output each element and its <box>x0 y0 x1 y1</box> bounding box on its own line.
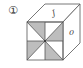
right-face-symbol: 0 <box>69 28 74 37</box>
center-dot <box>44 40 46 42</box>
cube-diagram: J 0 <box>0 0 83 68</box>
